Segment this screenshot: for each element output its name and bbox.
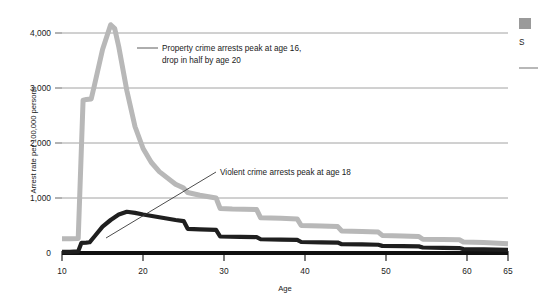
chart-svg: 4,000 3,000 2,000 1,000 0 10 20 30 40 50… [0, 0, 538, 301]
y-tick-label-0: 0 [46, 248, 51, 258]
series-group [62, 25, 508, 252]
x-axis-title: Age [278, 284, 292, 293]
y-tick-marks [55, 33, 62, 198]
x-tick-labels: 10 20 30 40 50 60 65 [57, 266, 513, 276]
legend-swatch-property[interactable] [519, 18, 531, 29]
x-tick-label-30: 30 [219, 266, 229, 276]
property-annotation-line-1: Property crime arrests peak at age 16, [162, 44, 301, 53]
violent-annotation-line-1: Violent crime arrests peak at age 18 [220, 168, 351, 177]
x-tick-label-50: 50 [381, 266, 391, 276]
x-tick-label-60: 60 [462, 266, 472, 276]
arrest-rate-by-age-chart: 4,000 3,000 2,000 1,000 0 10 20 30 40 50… [0, 0, 538, 301]
property-annotation-line-2: drop in half by age 20 [162, 56, 241, 65]
legend: S [519, 18, 538, 68]
y-axis-title: Arrest rate per 100,000 persons [29, 86, 38, 193]
x-tick-label-40: 40 [300, 266, 310, 276]
x-tick-label-65: 65 [503, 266, 513, 276]
property-crime-annotation: Property crime arrests peak at age 16, d… [137, 44, 301, 65]
x-tick-label-20: 20 [138, 266, 148, 276]
y-tick-label-4000: 4,000 [30, 28, 51, 38]
legend-label-property: S [519, 38, 525, 47]
x-tick-label-10: 10 [57, 266, 67, 276]
